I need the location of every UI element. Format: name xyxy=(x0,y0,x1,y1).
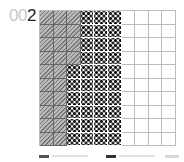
grid-cell-empty xyxy=(149,133,163,147)
grid-cell-empty xyxy=(149,92,163,106)
grid-cell-dot xyxy=(108,79,122,93)
grid-cell-empty xyxy=(162,52,176,66)
grid-cell-dot xyxy=(81,25,95,39)
grid-cell-dot xyxy=(81,52,95,66)
grid-cell-hatch xyxy=(40,65,54,79)
grid-cell-empty xyxy=(149,65,163,79)
grid-cell-dot xyxy=(94,119,108,133)
grid-cell-empty xyxy=(122,25,136,39)
grid-cell-empty xyxy=(149,79,163,93)
grid-cell-hatch xyxy=(54,79,68,93)
grid-cell-hatch xyxy=(40,52,54,66)
grid-cell-empty xyxy=(135,92,149,106)
grid-cell-hatch xyxy=(40,25,54,39)
grid-cell-dot xyxy=(94,106,108,120)
grid-cell-hatch xyxy=(54,25,68,39)
grid-cell-dot xyxy=(67,133,81,147)
hatched-swatch-icon xyxy=(39,155,49,158)
grid-cell-empty xyxy=(135,119,149,133)
grid-cell-empty xyxy=(162,119,176,133)
grid-cell-dot xyxy=(108,52,122,66)
grid-cell-dot xyxy=(67,92,81,106)
grid-cell-empty xyxy=(135,133,149,147)
grid-cell-dot xyxy=(108,133,122,147)
grid-cell-empty xyxy=(162,79,176,93)
grid-cell-dot xyxy=(108,92,122,106)
grid-cell-hatch xyxy=(40,92,54,106)
grid-cell-dot xyxy=(81,65,95,79)
grid-cell-empty xyxy=(135,79,149,93)
grid-cell-empty xyxy=(162,11,176,25)
grid-cell-empty xyxy=(122,52,136,66)
grid-cell-empty xyxy=(122,119,136,133)
grid-cell-dot xyxy=(67,119,81,133)
legend-box xyxy=(165,155,179,158)
figure-label-prefix: 00 xyxy=(9,6,27,25)
grid-cell-dot xyxy=(81,119,95,133)
grid-cell-hatch xyxy=(67,38,81,52)
legend-item-hatched xyxy=(39,155,88,158)
grid-cell-dot xyxy=(94,25,108,39)
grid-cell-hatch xyxy=(67,25,81,39)
grid-cell-empty xyxy=(135,52,149,66)
waffle-grid xyxy=(39,10,176,146)
grid-cell-empty xyxy=(162,133,176,147)
legend xyxy=(39,153,179,159)
grid-cell-empty xyxy=(162,38,176,52)
grid-cell-hatch xyxy=(54,133,68,147)
grid-cell-empty xyxy=(135,11,149,25)
grid-cell-dot xyxy=(108,11,122,25)
grid-cell-dot xyxy=(108,106,122,120)
grid-cell-hatch xyxy=(40,79,54,93)
grid-cell-empty xyxy=(149,11,163,25)
grid-cell-hatch xyxy=(67,11,81,25)
grid-cell-empty xyxy=(162,92,176,106)
grid-cell-dot xyxy=(94,79,108,93)
grid-cell-hatch xyxy=(40,38,54,52)
grid-cell-dot xyxy=(108,65,122,79)
grid-cell-empty xyxy=(122,106,136,120)
grid-cell-empty xyxy=(122,38,136,52)
grid-cell-empty xyxy=(162,25,176,39)
grid-cell-empty xyxy=(149,25,163,39)
grid-cell-empty xyxy=(122,11,136,25)
grid-cell-dot xyxy=(108,25,122,39)
grid-cell-dot xyxy=(81,106,95,120)
grid-cell-dot xyxy=(94,65,108,79)
grid-cell-dot xyxy=(108,119,122,133)
grid-cell-dot xyxy=(67,79,81,93)
grid-cell-empty xyxy=(149,106,163,120)
grid-cell-hatch xyxy=(54,92,68,106)
grid-cell-dot xyxy=(81,133,95,147)
grid-cell-empty xyxy=(122,79,136,93)
figure-label: 002 xyxy=(9,7,36,24)
grid-cell-empty xyxy=(149,38,163,52)
grid-cell-empty xyxy=(122,92,136,106)
grid-cell-hatch xyxy=(67,52,81,66)
grid-cell-hatch xyxy=(54,52,68,66)
grid-cell-empty xyxy=(149,52,163,66)
grid-cell-dot xyxy=(108,38,122,52)
grid-cell-dot xyxy=(94,92,108,106)
grid-cell-dot xyxy=(67,106,81,120)
grid-cell-hatch xyxy=(54,65,68,79)
grid-cell-hatch xyxy=(40,11,54,25)
grid-cell-dot xyxy=(81,79,95,93)
dotted-swatch-icon xyxy=(106,155,116,158)
grid-cell-empty xyxy=(135,65,149,79)
legend-text-dotted xyxy=(119,155,155,157)
grid-cell-dot xyxy=(81,11,95,25)
grid-cell-empty xyxy=(122,133,136,147)
grid-cell-empty xyxy=(135,25,149,39)
grid-cell-dot xyxy=(67,65,81,79)
grid-cell-empty xyxy=(149,119,163,133)
grid-cell-empty xyxy=(135,38,149,52)
grid-cell-hatch xyxy=(40,119,54,133)
grid-cell-empty xyxy=(162,106,176,120)
grid-cell-dot xyxy=(81,92,95,106)
grid-cell-hatch xyxy=(54,106,68,120)
grid-cell-empty xyxy=(122,65,136,79)
grid-cell-hatch xyxy=(54,11,68,25)
grid-cell-empty xyxy=(135,106,149,120)
grid-cell-hatch xyxy=(54,38,68,52)
